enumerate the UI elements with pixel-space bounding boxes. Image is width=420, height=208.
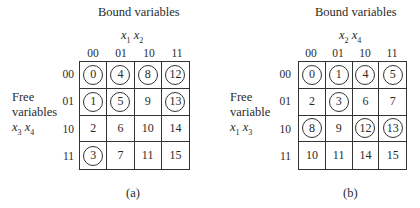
kmap-cell: 9 — [326, 116, 353, 143]
cell-value: 8 — [309, 121, 315, 136]
cell-value: 15 — [169, 148, 181, 163]
kmap-cell: 0 — [299, 62, 326, 89]
row-header: 11 — [54, 150, 74, 162]
circle-marker-icon: 8 — [138, 65, 158, 85]
cell-value: 13 — [387, 121, 399, 136]
row-header: 00 — [54, 68, 74, 80]
kmap-cell: 15 — [379, 142, 406, 169]
cell-value: 0 — [90, 67, 96, 82]
circle-marker-icon: 1 — [329, 65, 349, 85]
kmap-cell: 13 — [162, 89, 189, 116]
cell-value: 6 — [362, 94, 368, 109]
kmap-cell: 13 — [379, 116, 406, 143]
cell-value: 6 — [117, 121, 123, 136]
kmap-cell: 12 — [353, 116, 380, 143]
circle-marker-icon: 5 — [383, 65, 403, 85]
kmap-cell: 6 — [353, 89, 380, 116]
cell-value: 9 — [145, 94, 151, 109]
cell-value: 7 — [390, 94, 396, 109]
circle-marker-icon: 8 — [302, 118, 322, 138]
cell-value: 1 — [336, 67, 342, 82]
cell-value: 12 — [169, 67, 181, 82]
row-header: 10 — [271, 123, 291, 135]
circle-marker-icon: 4 — [110, 65, 130, 85]
kmap-cell: 0 — [80, 62, 107, 89]
cell-value: 3 — [336, 94, 342, 109]
cell-value: 2 — [90, 121, 96, 136]
cell-value: 15 — [387, 148, 399, 163]
kmap-cell: 12 — [162, 62, 189, 89]
circle-marker-icon: 1 — [83, 92, 103, 112]
cell-value: 0 — [309, 67, 315, 82]
cell-value: 12 — [359, 121, 371, 136]
kmap-cell: 5 — [379, 62, 406, 89]
cell-value: 11 — [333, 148, 345, 163]
circle-marker-icon: 13 — [383, 118, 403, 138]
kmap-cell: 5 — [107, 89, 134, 116]
kmap-cell: 4 — [353, 62, 380, 89]
cell-value: 4 — [362, 67, 368, 82]
kmap-cell: 3 — [80, 142, 107, 169]
bound-title-a: Bound variables — [98, 5, 180, 20]
col-header: 11 — [163, 47, 191, 59]
cell-value: 8 — [145, 67, 151, 82]
kmap-cell: 4 — [107, 62, 134, 89]
cell-value: 1 — [90, 94, 96, 109]
kmap-cell: 14 — [162, 116, 189, 143]
kmap-cell: 10 — [135, 116, 162, 143]
cell-value: 7 — [117, 148, 123, 163]
kmap-cell: 2 — [80, 116, 107, 143]
kmap-cell: 8 — [135, 62, 162, 89]
circle-marker-icon: 12 — [165, 65, 185, 85]
kmap-cell: 2 — [299, 89, 326, 116]
kmap-cell: 7 — [379, 89, 406, 116]
kmap-cell: 1 — [80, 89, 107, 116]
kmap-cell: 14 — [353, 142, 380, 169]
cell-value: 5 — [117, 94, 123, 109]
kmap-cell: 15 — [162, 142, 189, 169]
cell-value: 4 — [117, 67, 123, 82]
cell-value: 10 — [306, 148, 318, 163]
cell-value: 2 — [309, 94, 315, 109]
col-header: 00 — [297, 47, 325, 59]
col-header: 00 — [79, 47, 107, 59]
caption-b: (b) — [343, 186, 358, 201]
kmap-cell: 9 — [135, 89, 162, 116]
circle-marker-icon: 4 — [355, 65, 375, 85]
kmap-cell: 6 — [107, 116, 134, 143]
cell-value: 9 — [336, 121, 342, 136]
col-header: 01 — [107, 47, 135, 59]
kmap-grid-b: 0145236789121310111415 — [298, 61, 407, 170]
kmap-cell: 7 — [107, 142, 134, 169]
kmap-grid-a: 0481215913261014371115 — [79, 61, 190, 170]
row-header: 11 — [271, 150, 291, 162]
bound-title-b: Bound variables — [315, 5, 397, 20]
col-header: 01 — [324, 47, 352, 59]
kmap-cell: 11 — [135, 142, 162, 169]
circle-marker-icon: 0 — [83, 65, 103, 85]
kmap-cell: 3 — [326, 89, 353, 116]
cell-value: 10 — [142, 121, 154, 136]
circle-marker-icon: 13 — [165, 92, 185, 112]
bound-vars-b: x2 x4 — [339, 28, 361, 45]
kmap-cell: 1 — [326, 62, 353, 89]
circle-marker-icon: 0 — [302, 65, 322, 85]
row-header: 00 — [271, 68, 291, 80]
cell-value: 3 — [90, 148, 96, 163]
cell-value: 5 — [390, 67, 396, 82]
kmap-cell: 10 — [299, 142, 326, 169]
kmap-cell: 8 — [299, 116, 326, 143]
kmap-cell: 11 — [326, 142, 353, 169]
cell-value: 14 — [359, 148, 371, 163]
circle-marker-icon: 5 — [110, 92, 130, 112]
caption-a: (a) — [126, 186, 140, 201]
circle-marker-icon: 12 — [355, 118, 375, 138]
circle-marker-icon: 3 — [329, 92, 349, 112]
col-header: 11 — [378, 47, 406, 59]
cell-value: 14 — [169, 121, 181, 136]
row-header: 01 — [271, 95, 291, 107]
free-vars-label-a: Free variables x3 x4 — [12, 90, 57, 140]
free-vars-label-b: Free variable x1 x3 — [230, 90, 270, 140]
cell-value: 13 — [169, 94, 181, 109]
cell-value: 11 — [142, 148, 154, 163]
